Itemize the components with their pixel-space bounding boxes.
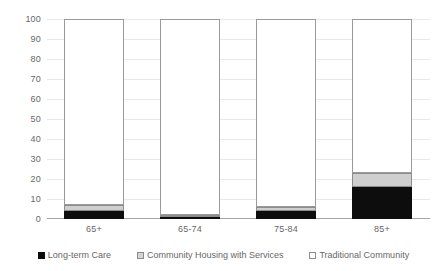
bar-65-plus [64, 19, 124, 219]
bar-segment-traditional-community [160, 19, 220, 215]
black-square-icon [38, 252, 45, 259]
y-axis-tick-100: 100 [25, 15, 41, 24]
y-axis-tick-20: 20 [31, 175, 41, 184]
bar-85-plus [352, 19, 412, 219]
y-axis-tick-labels: 100 90 80 70 60 50 40 30 20 10 0 [0, 19, 41, 219]
y-axis-tick-30: 30 [31, 155, 41, 164]
bar-segment-community-housing [352, 173, 412, 187]
bar-segment-traditional-community [352, 19, 412, 173]
white-square-icon [309, 252, 316, 259]
x-axis-label-85-plus: 85+ [337, 224, 427, 235]
y-axis-tick-0: 0 [36, 215, 41, 224]
y-axis-tick-50: 50 [31, 115, 41, 124]
bar-segment-long-term-care [256, 211, 316, 219]
bar-segment-long-term-care [352, 187, 412, 219]
gray-square-icon [137, 252, 144, 259]
bar-segment-traditional-community [256, 19, 316, 207]
legend-item-community-housing: Community Housing with Services [137, 250, 284, 261]
bar-segment-long-term-care [160, 217, 220, 219]
legend-item-long-term-care: Long-term Care [38, 250, 111, 261]
y-axis-tick-80: 80 [31, 55, 41, 64]
x-axis-label-65-74: 65-74 [145, 224, 235, 235]
plot-area [47, 19, 430, 219]
chart-legend: Long-term Care Community Housing with Se… [0, 250, 447, 261]
y-axis-tick-70: 70 [31, 75, 41, 84]
x-axis-category-labels: 65+ 65-74 75-84 85+ [47, 224, 430, 238]
x-axis-label-65-plus: 65+ [49, 224, 139, 235]
legend-label: Long-term Care [48, 250, 111, 261]
y-axis-tick-40: 40 [31, 135, 41, 144]
x-axis-label-75-84: 75-84 [241, 224, 331, 235]
y-axis-tick-90: 90 [31, 35, 41, 44]
legend-label: Community Housing with Services [147, 250, 284, 261]
bar-segment-traditional-community [64, 19, 124, 205]
y-axis-tick-10: 10 [31, 195, 41, 204]
legend-label: Traditional Community [319, 250, 409, 261]
y-axis-tick-60: 60 [31, 95, 41, 104]
bar-segment-long-term-care [64, 211, 124, 219]
legend-item-traditional-community: Traditional Community [309, 250, 409, 261]
bar-65-74 [160, 19, 220, 219]
stacked-bar-chart: 100 90 80 70 60 50 40 30 20 10 0 [0, 0, 447, 271]
bar-75-84 [256, 19, 316, 219]
